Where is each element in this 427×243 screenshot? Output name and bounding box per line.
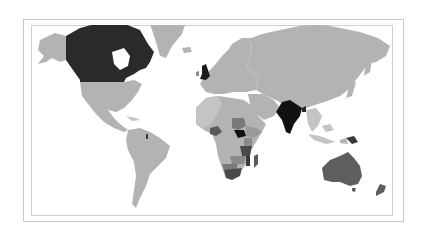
region-new-zealand[interactable] [376,184,386,196]
region-papua-new-guinea[interactable] [346,136,358,144]
region-usa[interactable] [80,80,142,112]
region-australia[interactable] [322,152,362,186]
region-south-america[interactable] [126,128,170,208]
region-tanzania[interactable] [240,146,252,156]
world-map [0,0,427,243]
region-alaska[interactable] [38,33,66,64]
region-zambia[interactable] [230,156,246,164]
region-madagascar[interactable] [254,154,258,168]
region-greenland[interactable] [150,22,186,58]
region-south-africa[interactable] [224,168,242,180]
region-kenya[interactable] [244,138,252,146]
region-southeast-asia[interactable] [306,108,322,132]
region-canada[interactable] [66,22,154,82]
